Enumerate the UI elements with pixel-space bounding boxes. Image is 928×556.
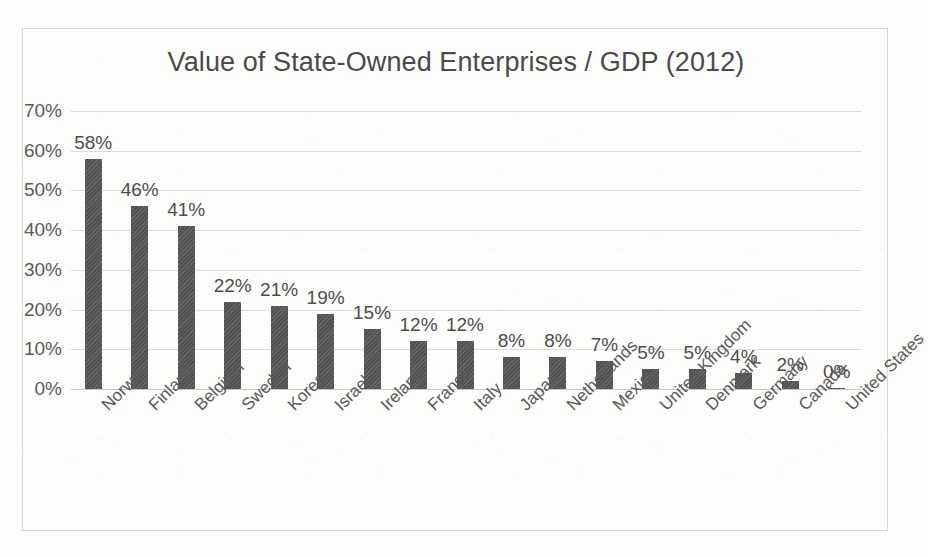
x-axis-category-label-text: Israel [331,372,374,415]
gridline [71,151,861,152]
chart-frame: Value of State-Owned Enterprises / GDP (… [22,28,888,531]
y-axis-tick-label: 0% [35,378,62,400]
bar-data-label: 58% [74,132,112,154]
y-axis-tick-label: 20% [24,299,62,321]
bar-data-label: 12% [400,314,438,336]
y-axis-tick-label: 40% [24,219,62,241]
axis-baseline [71,389,861,390]
gridline [71,111,861,112]
bar [503,357,520,389]
x-axis-category-label-text: United States [842,329,928,415]
bar-data-label: 12% [446,314,484,336]
x-axis-category-label: Italy [470,379,506,415]
bar [85,159,102,389]
bar-data-label: 41% [167,199,205,221]
x-axis-category-label: Israel [331,372,375,416]
y-axis-tick-label: 60% [24,140,62,162]
chart-title: Value of State-Owned Enterprises / GDP (… [23,47,889,78]
bar-data-label: 21% [260,279,298,301]
y-axis-tick-label: 50% [24,179,62,201]
y-axis-tick-label: 30% [24,259,62,281]
x-axis-category-label-text: Japan [516,368,562,414]
bar-data-label: 19% [307,287,345,309]
y-axis-tick-label: 70% [24,100,62,122]
bar-data-label: 8% [544,330,571,352]
x-axis-category-label: United States [842,329,928,415]
bar-data-label: 46% [121,179,159,201]
bar-data-label: 22% [214,275,252,297]
x-axis-category-label-text: Italy [470,379,505,414]
bar-data-label: 15% [353,302,391,324]
bar-data-label: 5% [637,342,664,364]
x-axis-category-label: Japan [516,368,563,415]
y-axis-tick-label: 10% [24,338,62,360]
gridline [71,190,861,191]
plot-area: 0%10%20%30%40%50%60%70% 58%46%41%22%21%1… [71,111,861,389]
bar-data-label: 8% [498,330,525,352]
